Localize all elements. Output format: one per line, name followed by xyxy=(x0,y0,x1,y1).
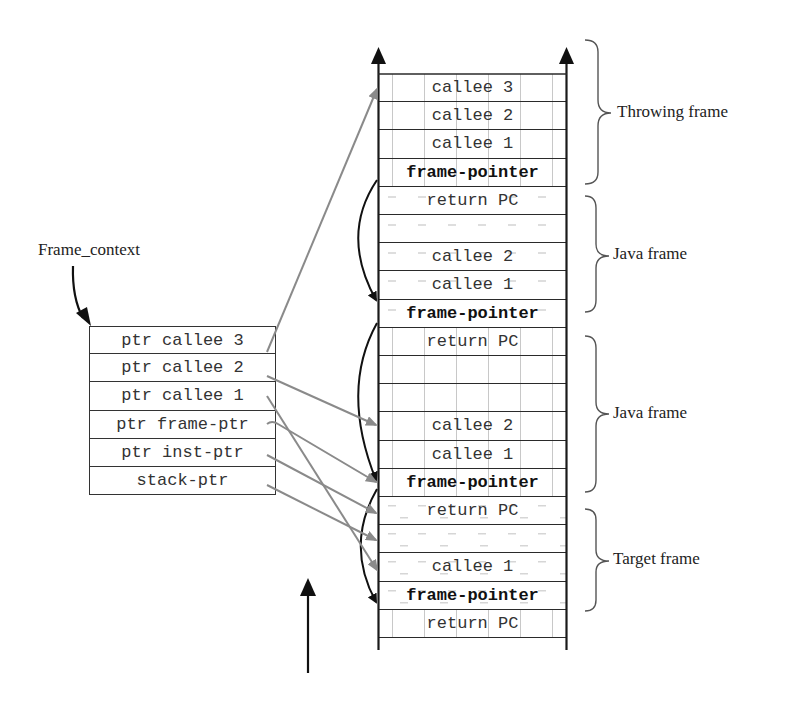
up-arrow-icon xyxy=(300,578,316,596)
context-pointer-arrows xyxy=(267,89,377,570)
diagram-lines xyxy=(0,0,799,705)
up-arrow-icon xyxy=(371,47,386,64)
stack-rails xyxy=(371,47,574,650)
ptr-inst-ptr-arrow xyxy=(267,455,376,513)
brace-java-1 xyxy=(585,196,609,312)
brace-java-2 xyxy=(585,336,609,492)
ptr-frame-ptr-arrow xyxy=(267,422,376,482)
stack-ptr-arrow xyxy=(267,485,376,540)
exception-unwinding-diagram: callee 3callee 2callee 1frame-pointerret… xyxy=(0,0,799,705)
up-arrow-icon xyxy=(559,47,574,64)
brace-throwing xyxy=(585,40,611,184)
frame-braces xyxy=(585,40,611,611)
brace-target xyxy=(585,509,609,611)
